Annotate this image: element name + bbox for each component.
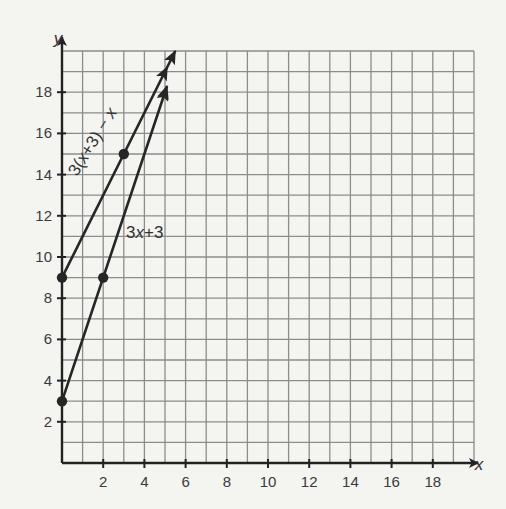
y-tick-label: 14	[35, 166, 52, 183]
x-tick-label: 10	[260, 473, 277, 490]
x-tick-label: 18	[424, 473, 441, 490]
y-tick-label: 6	[44, 330, 52, 347]
x-tick-label: 16	[383, 473, 400, 490]
x-tick-label: 14	[342, 473, 359, 490]
y-axis-label: y	[53, 29, 64, 48]
data-point	[98, 272, 108, 282]
y-tick-label: 8	[44, 289, 52, 306]
y-tick-label: 4	[44, 372, 52, 389]
series-label-3x-plus-3: 3x+3	[126, 223, 163, 242]
y-tick-label: 2	[44, 413, 52, 430]
var-x: x	[134, 223, 144, 242]
y-tick-label: 12	[35, 207, 52, 224]
data-point	[57, 272, 67, 282]
x-tick-label: 12	[301, 473, 318, 490]
y-tick-label: 16	[35, 124, 52, 141]
series-label-3x-plus-3-minus-x: 3(x+3) − x	[64, 104, 121, 179]
y-tick-label: 10	[35, 248, 52, 265]
data-point	[119, 149, 129, 159]
series-label-text: +3	[144, 223, 163, 242]
x-axis-label: x	[474, 455, 484, 474]
data-point	[57, 396, 67, 406]
x-tick-label: 6	[181, 473, 189, 490]
x-tick-label: 4	[140, 473, 148, 490]
grid	[62, 51, 474, 463]
series-label-text: 3	[126, 223, 135, 242]
x-tick-label: 2	[99, 473, 107, 490]
y-tick-label: 18	[35, 83, 52, 100]
x-tick-label: 8	[223, 473, 231, 490]
chart-canvas: 2468101214161824681012141618 y x 3(x+3) …	[0, 0, 506, 509]
